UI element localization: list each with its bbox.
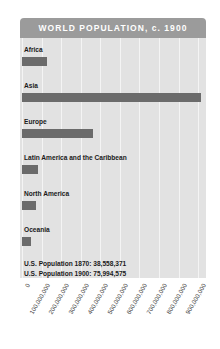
chart-title-band: WORLD POPULATION, c. 1900 [20,18,206,38]
bar [22,237,31,246]
bar-category-label: North America [24,190,69,197]
page-title: WORLD POPULATION, c. 1900 [39,23,188,33]
x-tick-label: 900,000,000 [184,282,207,315]
bar [22,201,36,210]
bar-rows: AfricaAsiaEuropeLatin America and the Ca… [20,38,206,278]
bar [22,165,38,174]
bar-category-label: Latin America and the Caribbean [24,154,127,161]
x-axis-tick-labels: 0100,000,000200,000,000300,000,000400,00… [0,282,220,349]
bar-category-label: Europe [24,118,47,125]
x-tick-label: 0 [23,282,31,288]
bar-category-label: Oceania [24,226,50,233]
plot-area: AfricaAsiaEuropeLatin America and the Ca… [20,38,206,278]
bar [22,129,93,138]
chart-annotation: U.S. Population 1900: 75,994,575 [24,270,126,277]
bar [22,93,201,102]
chart-figure: WORLD POPULATION, c. 1900 AfricaAsiaEuro… [0,0,220,349]
chart-annotation: U.S. Population 1870: 38,558,371 [24,260,126,267]
bar-category-label: Africa [24,46,43,53]
bar [22,57,47,66]
bar-category-label: Asia [24,82,38,89]
